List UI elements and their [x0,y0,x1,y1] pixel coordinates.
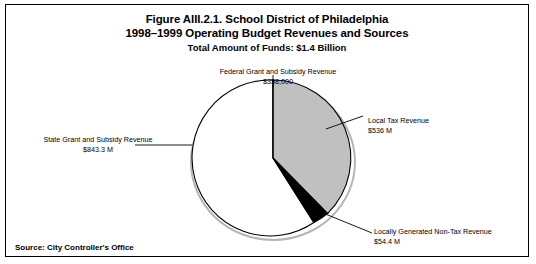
callout-local-tax: Local Tax Revenue $536 M [368,116,429,135]
callout-nontax: Locally Generated Non-Tax Revenue $54.4 … [374,227,492,246]
callout-state-grant-label: State Grant and Subsidy Revenue [43,135,152,144]
callout-state-grant-amount: $843.3 M [30,145,166,155]
figure-frame: Figure AIII.2.1. School District of Phil… [5,4,529,257]
source-note: Source: City Controller's Office [15,243,134,252]
callout-federal-grant: Federal Grant and Subsidy Revenue $358,0… [182,67,374,86]
callout-nontax-amount: $54.4 M [374,237,492,247]
callout-federal-grant-amount: $358,000 [182,77,374,87]
callout-federal-grant-label: Federal Grant and Subsidy Revenue [220,67,337,76]
pie-chart [6,5,530,258]
callout-nontax-label: Locally Generated Non-Tax Revenue [374,227,492,236]
callout-local-tax-amount: $536 M [368,126,429,136]
callout-local-tax-label: Local Tax Revenue [368,116,429,125]
leader-line-nontax [323,213,372,233]
callout-state-grant: State Grant and Subsidy Revenue $843.3 M [30,135,166,154]
